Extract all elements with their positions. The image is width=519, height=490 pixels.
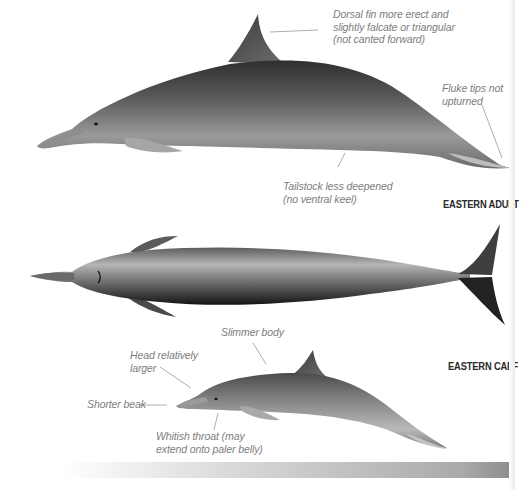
annotation-line: upturned: [442, 95, 503, 108]
dorsal-view-upper-fluke: [458, 224, 500, 275]
annotation-line: Whitish throat (may: [156, 430, 263, 443]
annotation-slimmer-body: Slimmer body: [221, 326, 284, 339]
annotation-line: (not canted forward): [333, 33, 455, 46]
page-bottom-gradient-bar: [0, 462, 515, 478]
dorsal-view-beak: [30, 272, 74, 280]
leader-whitish-throat: [214, 413, 218, 430]
leader-slimmer-body: [253, 343, 266, 364]
adult-body: [37, 60, 510, 168]
adult-dorsal-fin: [228, 14, 285, 64]
annotation-line: Tailstock less deepened: [283, 180, 392, 193]
annotation-shorter-beak: Shorter beak: [87, 398, 146, 411]
annotation-line: Head relatively: [130, 349, 198, 362]
annotation-tailstock: Tailstock less deepened (no ventral keel…: [283, 180, 392, 205]
annotation-line: slightly falcate or triangular: [333, 21, 455, 34]
leader-tailstock: [338, 153, 345, 167]
dorsal-view-lower-fluke: [458, 277, 505, 325]
calf-eye: [214, 398, 218, 400]
annotation-line: (no ventral keel): [283, 193, 392, 206]
dorsal-view-body: [30, 248, 470, 305]
annotation-line: larger: [130, 362, 198, 375]
annotation-whitish-throat: Whitish throat (may extend onto paler be…: [156, 430, 263, 455]
adult-eye: [94, 123, 98, 126]
annotation-line: extend onto paler belly): [156, 443, 263, 456]
leader-dorsal-fin: [270, 30, 318, 32]
annotation-line: Dorsal fin more erect and: [333, 8, 455, 21]
label-eastern-calf: EASTERN CALF: [448, 360, 518, 372]
page-edge-strip: [509, 0, 515, 490]
label-eastern-adult: EASTERN ADULT: [443, 198, 519, 210]
annotation-dorsal-fin: Dorsal fin more erect and slightly falca…: [333, 8, 455, 46]
adult-dorsal-view-dolphin: [30, 224, 505, 325]
leader-fluke-tips: [482, 105, 502, 158]
annotation-line: Slimmer body: [221, 326, 284, 339]
annotation-line: Fluke tips not: [442, 82, 503, 95]
annotation-head-larger: Head relatively larger: [130, 349, 198, 374]
annotation-fluke-tips: Fluke tips not upturned: [442, 82, 503, 107]
annotation-line: Shorter beak: [87, 398, 146, 411]
